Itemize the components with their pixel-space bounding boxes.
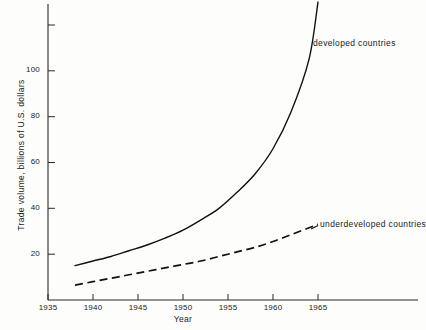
x-tick-label-1955: 1955 — [208, 303, 248, 312]
x-tick-label-1940: 1940 — [73, 303, 113, 312]
y-tick-label-20: 20 — [14, 249, 40, 258]
x-axis-ticks — [48, 294, 318, 300]
x-tick-label-1965: 1965 — [298, 303, 338, 312]
x-axis-title: Year — [0, 314, 366, 324]
x-tick-label-1945: 1945 — [118, 303, 158, 312]
y-axis-ticks — [48, 25, 55, 254]
x-tick-label-1960: 1960 — [253, 303, 293, 312]
series-label-developed-countries: developed countries — [313, 38, 396, 48]
x-tick-label-1935: 1935 — [28, 303, 68, 312]
y-axis-title: Trade volume, billions of U.S. dollars — [16, 60, 26, 250]
x-tick-label-1950: 1950 — [163, 303, 203, 312]
series-label-underdeveloped-countries: underdeveloped countries — [320, 219, 426, 229]
series-line-developed-countries — [75, 2, 318, 266]
series-line-underdeveloped-countries — [75, 224, 318, 285]
